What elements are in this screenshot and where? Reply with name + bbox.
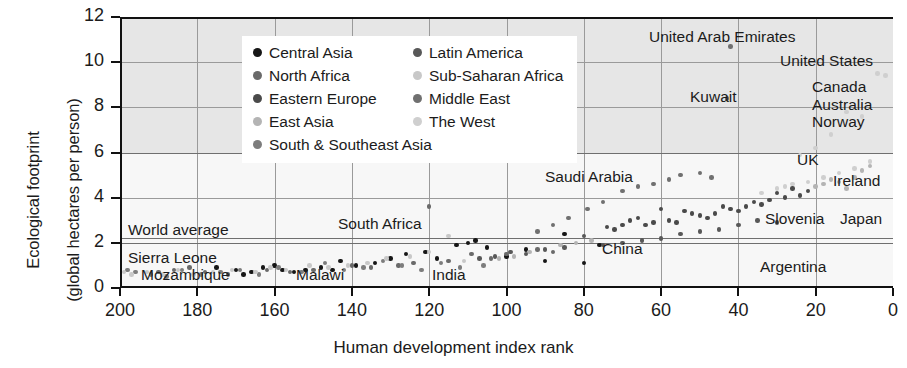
x-tick-label: 60 xyxy=(631,300,691,321)
x-tick-label: 80 xyxy=(554,300,614,321)
data-point xyxy=(755,218,760,223)
x-axis-tick xyxy=(506,288,508,296)
chart-annotation-label: South Africa xyxy=(338,215,422,232)
data-point xyxy=(651,220,656,225)
x-axis-tick xyxy=(737,288,739,296)
legend-item-label: Middle East xyxy=(429,90,510,108)
legend-item: Central Asia xyxy=(253,41,377,64)
data-point xyxy=(667,218,672,223)
legend-item-label: The West xyxy=(429,113,495,131)
y-tick-label: 8 xyxy=(56,95,104,116)
data-point xyxy=(612,227,617,232)
legend-item: Latin America xyxy=(413,41,563,64)
data-point xyxy=(257,272,262,277)
data-point xyxy=(365,261,370,266)
legend-item-south-southeast-asia: South & Southeast Asia xyxy=(253,133,432,156)
chart-annotation-label: Mozambique xyxy=(141,266,230,283)
data-point xyxy=(690,211,695,216)
data-point xyxy=(628,218,633,223)
data-point xyxy=(698,213,703,218)
x-axis-tick xyxy=(428,288,430,296)
x-axis-tick xyxy=(351,288,353,296)
data-point xyxy=(883,73,888,78)
data-point xyxy=(435,256,440,261)
data-point xyxy=(419,268,424,273)
data-point xyxy=(535,229,540,234)
data-point xyxy=(659,236,664,241)
y-axis-tick xyxy=(111,106,120,108)
data-point xyxy=(620,223,625,228)
data-point xyxy=(643,223,648,228)
data-point xyxy=(497,256,502,261)
data-point xyxy=(620,189,625,194)
x-tick-label: 120 xyxy=(399,300,459,321)
data-point xyxy=(821,175,826,180)
chart-annotation-label: Canada xyxy=(812,78,866,95)
legend-item-label: Eastern Europe xyxy=(269,90,377,108)
y-axis-tick xyxy=(111,152,120,154)
y-axis-tick xyxy=(111,242,120,244)
data-point xyxy=(527,250,532,255)
data-point xyxy=(717,227,722,232)
world-average-reference-line xyxy=(120,238,893,239)
data-point xyxy=(562,245,567,250)
ecological-footprint-scatter-figure: Ecological footprint (global hectares pe… xyxy=(0,0,907,368)
data-point xyxy=(551,223,556,228)
data-point xyxy=(698,229,703,234)
y-axis-line xyxy=(120,17,122,288)
legend-item: North Africa xyxy=(253,64,377,87)
data-point xyxy=(384,256,389,261)
data-point xyxy=(268,265,273,270)
x-axis-tick xyxy=(274,288,276,296)
y-axis-tick xyxy=(111,197,120,199)
chart-annotation-label: Slovenia xyxy=(765,210,824,227)
y-tick-label: 12 xyxy=(56,5,104,26)
x-axis-tick xyxy=(815,288,817,296)
y-axis-tick xyxy=(111,61,120,63)
data-point xyxy=(813,146,818,151)
data-point xyxy=(759,202,764,207)
y-tick-label: 2 xyxy=(56,231,104,252)
chart-annotation-label: Norway xyxy=(812,113,865,130)
data-point xyxy=(821,182,826,187)
data-point xyxy=(477,256,482,261)
legend: Central AsiaNorth AfricaEastern EuropeEa… xyxy=(242,36,577,163)
data-point xyxy=(241,272,246,277)
data-point xyxy=(767,198,772,203)
y-gridline xyxy=(120,243,893,244)
data-point xyxy=(446,259,451,264)
chart-annotation-label: World average xyxy=(128,221,229,238)
x-tick-label: 180 xyxy=(167,300,227,321)
data-point xyxy=(678,173,683,178)
data-point xyxy=(253,270,258,275)
x-tick-label: 40 xyxy=(708,300,768,321)
data-point xyxy=(481,263,486,268)
data-point xyxy=(783,195,788,200)
data-point xyxy=(276,265,281,270)
data-point xyxy=(589,238,594,243)
legend-item: Middle East xyxy=(413,87,563,110)
y-tick-label: 6 xyxy=(56,141,104,162)
x-axis-tick xyxy=(583,288,585,296)
x-axis-tick xyxy=(892,288,894,296)
data-point xyxy=(354,263,359,268)
data-point xyxy=(875,71,880,76)
plot-area: United Arab EmiratesUnited StatesKuwaitC… xyxy=(120,17,893,288)
x-axis-title: Human development index rank xyxy=(0,338,907,358)
data-point xyxy=(667,177,672,182)
x-tick-label: 160 xyxy=(245,300,305,321)
x-tick-label: 200 xyxy=(90,300,150,321)
data-point xyxy=(338,259,343,264)
legend-item-label: North Africa xyxy=(269,67,350,85)
chart-annotation-label: United Arab Emirates xyxy=(649,28,795,45)
data-point xyxy=(454,243,459,248)
chart-annotation-label: China xyxy=(602,240,643,257)
data-point xyxy=(636,184,641,189)
data-point xyxy=(485,245,490,250)
data-point xyxy=(651,182,656,187)
x-axis-tick xyxy=(660,288,662,296)
data-point xyxy=(705,216,710,221)
data-point xyxy=(493,254,498,259)
data-point xyxy=(585,207,590,212)
legend-marker-icon xyxy=(413,117,422,126)
